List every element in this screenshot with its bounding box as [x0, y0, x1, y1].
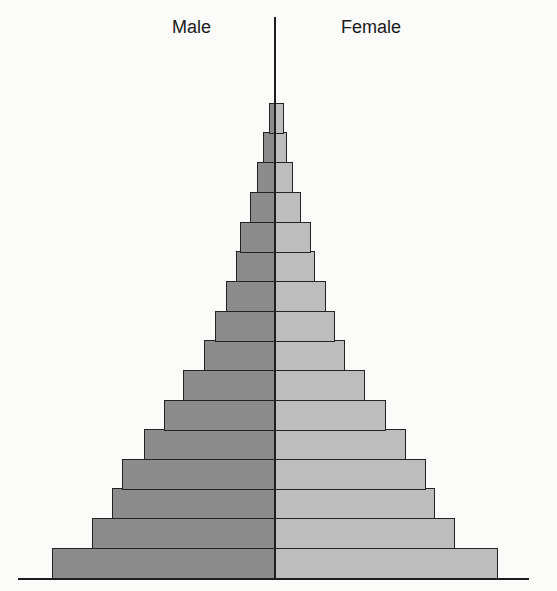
female-bar-cohort-5 [275, 429, 406, 460]
male-bar-cohort-7 [183, 370, 275, 401]
male-bar-cohort-12 [240, 222, 275, 253]
male-bar-cohort-10 [226, 281, 275, 312]
female-bar-cohort-9 [275, 311, 335, 342]
male-bar-cohort-14 [257, 162, 275, 193]
female-bar-cohort-11 [275, 251, 315, 282]
male-label: Male [172, 16, 211, 38]
female-bar-cohort-6 [275, 400, 386, 431]
population-pyramid-chart: Male Female [0, 0, 557, 591]
female-bar-cohort-10 [275, 281, 326, 312]
female-bar-cohort-8 [275, 340, 345, 371]
female-bar-cohort-2 [275, 518, 455, 549]
male-bar-cohort-11 [236, 251, 275, 282]
male-bar-cohort-1 [52, 548, 275, 579]
female-bar-cohort-16 [275, 103, 284, 134]
male-bar-cohort-2 [92, 518, 275, 549]
female-bar-cohort-14 [275, 162, 293, 193]
male-bar-cohort-6 [164, 400, 275, 431]
female-bar-cohort-7 [275, 370, 365, 401]
female-bar-cohort-4 [275, 459, 426, 490]
center-axis-line [274, 17, 276, 578]
female-label: Female [341, 16, 401, 38]
female-bar-cohort-13 [275, 192, 301, 223]
female-bar-cohort-12 [275, 222, 311, 253]
male-bar-cohort-13 [250, 192, 275, 223]
baseline-axis [18, 578, 529, 580]
male-bar-cohort-4 [122, 459, 275, 490]
male-bar-cohort-9 [215, 311, 275, 342]
male-bar-cohort-5 [144, 429, 275, 460]
female-bar-cohort-3 [275, 488, 435, 519]
female-bar-cohort-1 [275, 548, 498, 579]
male-bar-cohort-8 [204, 340, 275, 371]
male-bar-cohort-3 [112, 488, 275, 519]
female-bar-cohort-15 [275, 132, 287, 163]
